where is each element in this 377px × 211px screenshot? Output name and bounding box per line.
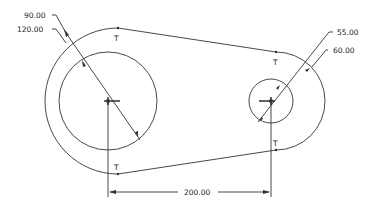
right-outer-arc[interactable]: [276, 52, 325, 150]
leader-60: [312, 50, 328, 67]
arrow-55-a: [276, 85, 280, 90]
dim-200[interactable]: 200.00: [184, 188, 210, 197]
tangent-mark-bottom-right: T: [272, 139, 278, 148]
leader-120: [52, 29, 66, 43]
arrow-dim-left: [109, 190, 116, 194]
tangent-mark-top-right: T: [272, 58, 278, 67]
right-center-point[interactable]: [269, 99, 273, 103]
top-tangent-line[interactable]: [118, 28, 276, 52]
dim-90[interactable]: 90.00: [24, 11, 46, 20]
tangent-mark-top-left: T: [113, 34, 119, 43]
bottom-tangent-line[interactable]: [118, 150, 276, 174]
arrow-60-a: [305, 68, 310, 72]
left-center-point[interactable]: [106, 99, 110, 103]
arrow-dim-right: [263, 190, 270, 194]
dim-60[interactable]: 60.00: [333, 46, 355, 55]
dim-55[interactable]: 55.00: [337, 28, 359, 37]
dim-120[interactable]: 120.00: [17, 25, 43, 34]
tangent-mark-bottom-left: T: [113, 163, 119, 172]
leader-55: [258, 32, 333, 122]
cad-sketch: 90.00 120.00 55.00 60.00 200.00 T T T T: [0, 0, 377, 211]
